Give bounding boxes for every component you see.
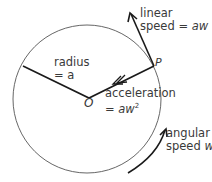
acceleration-label: acceleration = aw2 <box>105 87 176 116</box>
angular-label-text: speed <box>166 139 204 153</box>
radius-label-line2: = a <box>54 69 90 82</box>
linear-label-text: speed = <box>140 19 192 33</box>
point-p-label: P <box>155 56 162 69</box>
accel-label-sup: 2 <box>135 102 139 110</box>
accel-label-line2: = aw2 <box>105 100 176 116</box>
linear-label-line2: speed = aw <box>140 20 208 33</box>
radius-label: radius = a <box>54 56 90 82</box>
angular-label-line2: speed w <box>166 140 212 153</box>
angular-speed-arrow <box>128 130 165 173</box>
angular-label-var: w <box>204 139 212 153</box>
linear-speed-label: linear speed = aw <box>140 7 208 33</box>
linear-label-var: aw <box>192 19 208 33</box>
accel-label-line1: acceleration <box>105 87 176 100</box>
center-o-label: O <box>84 97 93 110</box>
accel-label-var: aw <box>118 102 134 116</box>
accel-label-text: = <box>105 102 118 116</box>
angular-speed-label: angular speed w <box>166 127 212 153</box>
